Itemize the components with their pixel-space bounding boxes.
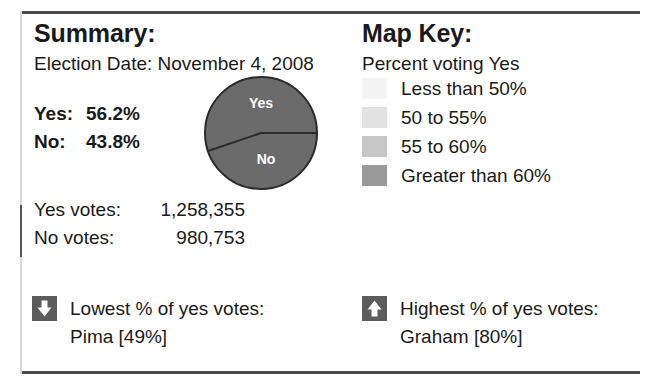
panel-left-rule [20, 11, 22, 374]
panel-bottom-rule [22, 371, 640, 374]
election-date: Election Date: November 4, 2008 [34, 51, 364, 77]
legend-item: 55 to 60% [362, 132, 551, 161]
yes-percent-row: Yes: 56.2% [34, 100, 140, 128]
legend-item: Less than 50% [362, 74, 551, 103]
highest-yes-votes-block: Highest % of yes votes: Graham [80%] [362, 296, 599, 348]
yes-no-pie-chart: Yes No [202, 76, 320, 190]
no-votes-label: No votes: [34, 224, 140, 252]
legend-swatch-less-than-50 [362, 78, 387, 99]
panel-left-rule-accent [20, 205, 22, 257]
highest-title: Highest % of yes votes: [400, 296, 599, 321]
pie-chart-svg: Yes No [202, 76, 320, 190]
yes-votes-label: Yes votes: [34, 196, 140, 224]
no-votes-value: 980,753 [140, 224, 245, 252]
yes-percent-value: 56.2% [86, 100, 140, 128]
legend-label-55-to-60: 55 to 60% [401, 136, 487, 158]
yes-percent-label: Yes: [34, 100, 86, 128]
percent-results: Yes: 56.2% No: 43.8% [34, 100, 140, 156]
lowest-detail: Pima [49%] [70, 326, 264, 348]
map-key-section: Map Key: Percent voting Yes [362, 18, 644, 77]
arrow-up-icon [362, 296, 387, 321]
map-key-heading: Map Key: [362, 18, 644, 48]
panel-top-rule [22, 11, 640, 14]
no-percent-label: No: [34, 128, 86, 156]
legend-label-greater-than-60: Greater than 60% [401, 165, 551, 187]
map-key-legend: Less than 50% 50 to 55% 55 to 60% Greate… [362, 74, 551, 190]
election-summary-panel: Summary: Election Date: November 4, 2008… [0, 0, 646, 392]
arrow-down-icon [32, 296, 57, 321]
highest-detail: Graham [80%] [400, 326, 599, 348]
yes-votes-value: 1,258,355 [140, 196, 245, 224]
lowest-title: Lowest % of yes votes: [70, 296, 264, 321]
legend-swatch-50-to-55 [362, 107, 387, 128]
pie-label-no: No [257, 151, 276, 167]
legend-item: Greater than 60% [362, 161, 551, 190]
summary-section: Summary: Election Date: November 4, 2008 [34, 18, 364, 77]
legend-swatch-55-to-60 [362, 136, 387, 157]
vote-counts: Yes votes: 1,258,355 No votes: 980,753 [34, 196, 245, 252]
legend-item: 50 to 55% [362, 103, 551, 132]
no-percent-value: 43.8% [86, 128, 140, 156]
map-key-subtitle: Percent voting Yes [362, 51, 644, 77]
no-votes-row: No votes: 980,753 [34, 224, 245, 252]
yes-votes-row: Yes votes: 1,258,355 [34, 196, 245, 224]
legend-label-less-than-50: Less than 50% [401, 78, 527, 100]
summary-heading: Summary: [34, 18, 364, 48]
legend-label-50-to-55: 50 to 55% [401, 107, 487, 129]
pie-label-yes: Yes [249, 95, 273, 111]
legend-swatch-greater-than-60 [362, 165, 387, 186]
lowest-yes-votes-block: Lowest % of yes votes: Pima [49%] [32, 296, 264, 348]
highest-header: Highest % of yes votes: [362, 296, 599, 321]
no-percent-row: No: 43.8% [34, 128, 140, 156]
lowest-header: Lowest % of yes votes: [32, 296, 264, 321]
